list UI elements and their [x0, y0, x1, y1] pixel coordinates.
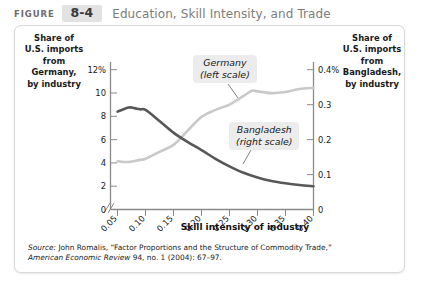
legend-germany: Germany (left scale) [193, 55, 257, 83]
svg-text:6: 6 [101, 135, 106, 145]
svg-text:8: 8 [101, 111, 106, 121]
svg-text:0.05: 0.05 [99, 213, 119, 233]
svg-text:0: 0 [101, 205, 106, 215]
source-journal: American Economic Review [28, 253, 130, 262]
right-axis-ticks [307, 70, 314, 210]
legend-bangladesh: Bangladesh (right scale) [229, 122, 299, 150]
source-label: Source: [28, 243, 56, 252]
left-axis-tick-labels: 12% 10 8 6 4 2 0 [87, 65, 106, 215]
germany-leader-line [228, 84, 238, 98]
svg-text:12%: 12% [87, 65, 106, 75]
figure-root: FIGURE 8-4 Education, Skill Intensity, a… [0, 0, 423, 288]
svg-text:4: 4 [101, 158, 106, 168]
svg-text:0.3: 0.3 [318, 100, 331, 110]
svg-text:2: 2 [101, 181, 106, 191]
left-axis-ticks [111, 70, 118, 210]
svg-text:0.2: 0.2 [318, 135, 331, 145]
svg-text:0: 0 [318, 205, 323, 215]
x-axis-ticks [118, 210, 314, 217]
source-line1: John Romalis, “Factor Proportions and th… [56, 243, 332, 252]
right-axis-tick-labels: 0.4% 0.3 0.2 0.1 0 [318, 65, 339, 215]
x-axis-title: Skill intensity of industry [150, 222, 340, 232]
bangladesh-leader-line [243, 150, 251, 164]
source-note: Source: John Romalis, “Factor Proportion… [28, 243, 398, 262]
svg-text:10: 10 [95, 88, 106, 98]
svg-text:0.10: 0.10 [127, 213, 147, 233]
svg-text:0.1: 0.1 [318, 170, 331, 180]
svg-text:0.4%: 0.4% [318, 65, 339, 75]
source-line2: 94, no. 1 (2004): 67–97. [130, 253, 222, 262]
